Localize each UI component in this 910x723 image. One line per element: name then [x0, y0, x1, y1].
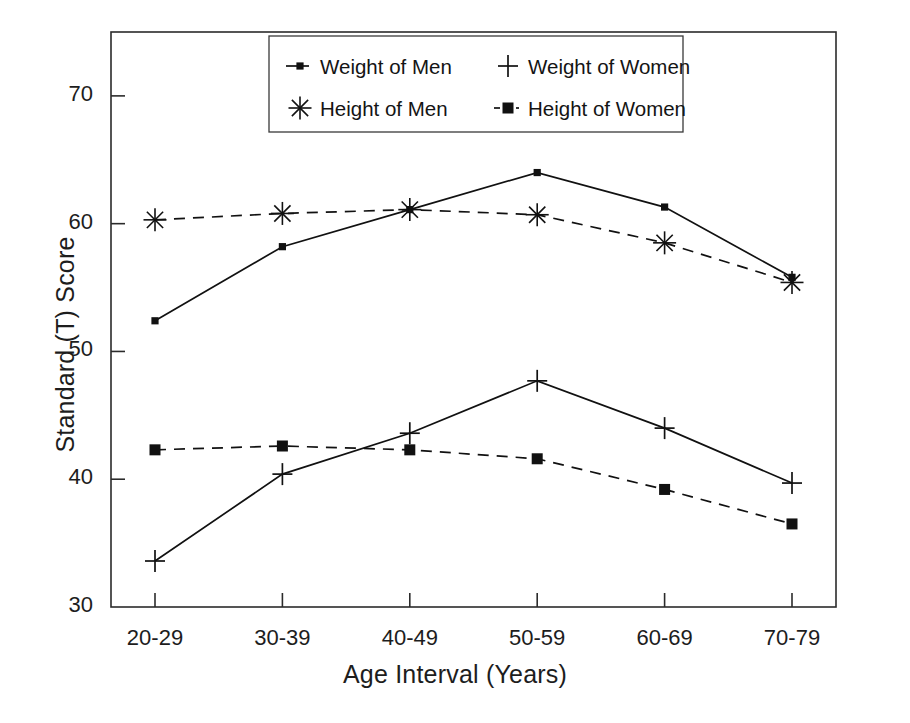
chart-container: Weight of MenWeight of WomenHeight of Me…: [0, 0, 910, 723]
x-tick-label: 60-69: [610, 625, 720, 651]
legend-label: Height of Women: [528, 97, 686, 120]
legend-label: Weight of Men: [320, 55, 452, 78]
chart-legend: Weight of MenWeight of WomenHeight of Me…: [269, 36, 690, 132]
data-series-group: [144, 169, 804, 572]
series-line: [155, 173, 792, 321]
x-tick-label: 40-49: [355, 625, 465, 651]
legend-label: Height of Men: [320, 97, 448, 120]
y-axis-ticks: [111, 96, 125, 479]
x-tick-label: 70-79: [737, 625, 847, 651]
series-line: [155, 210, 792, 283]
y-tick-label: 70: [23, 81, 93, 107]
x-axis-ticks: [155, 593, 792, 607]
x-tick-label: 50-59: [482, 625, 592, 651]
chart-plot-area: Weight of MenWeight of WomenHeight of Me…: [0, 0, 910, 723]
series-line: [155, 446, 792, 524]
y-axis-title: Standard (T) Score: [51, 135, 80, 555]
series-line: [155, 381, 792, 561]
x-axis-title: Age Interval (Years): [0, 660, 910, 689]
y-tick-label: 30: [23, 592, 93, 618]
x-tick-label: 20-29: [100, 625, 210, 651]
legend-label: Weight of Women: [528, 55, 690, 78]
x-tick-label: 30-39: [227, 625, 337, 651]
